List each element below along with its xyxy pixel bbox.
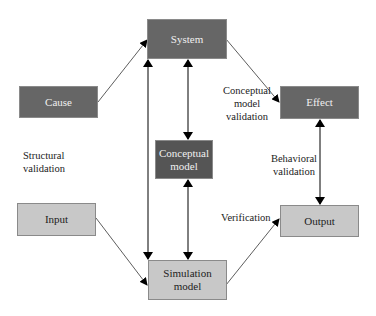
arrow-input-simulation (96, 218, 147, 285)
label-cmv-line2: model (212, 97, 282, 110)
node-input-label: Input (45, 213, 68, 226)
node-input: Input (17, 203, 96, 236)
node-cause-label: Cause (45, 96, 72, 109)
label-behavioral-validation: Behavioral validation (266, 152, 322, 178)
node-system: System (147, 19, 227, 59)
node-system-label: System (171, 33, 203, 46)
arrow-simulation-output (226, 219, 279, 285)
node-conceptual-model: Conceptual model (155, 140, 213, 179)
node-conceptual-line1: Conceptual (159, 147, 209, 160)
node-effect-label: Effect (306, 96, 333, 109)
node-conceptual-line2: model (170, 160, 198, 173)
label-bv-line1: Behavioral (266, 152, 322, 165)
label-cmv-line1: Conceptual (212, 84, 282, 97)
label-bv-line2: validation (266, 165, 322, 178)
node-cause: Cause (19, 86, 98, 118)
label-verification: Verification (221, 211, 271, 224)
node-effect: Effect (280, 86, 359, 119)
node-simulation-line1: Simulation (163, 267, 211, 280)
node-simulation-line2: model (174, 280, 202, 293)
node-output-label: Output (304, 215, 335, 228)
label-conceptual-model-validation: Conceptual model validation (212, 84, 282, 123)
label-structural-validation: Structural validation (23, 149, 65, 175)
label-cmv-line3: validation (212, 110, 282, 123)
arrow-cause-system (98, 40, 147, 102)
node-simulation-model: Simulation model (148, 260, 227, 300)
label-sv-line1: Structural (23, 149, 65, 162)
node-output: Output (280, 205, 359, 237)
label-sv-line2: validation (23, 162, 65, 175)
